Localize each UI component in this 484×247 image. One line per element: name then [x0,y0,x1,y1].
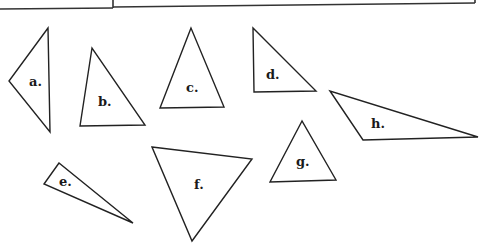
triangle-d: d. [253,28,316,92]
triangle-b-label: b. [98,94,112,109]
triangle-d-label: d. [266,67,280,82]
triangle-c-shape [160,28,224,108]
triangle-h-shape [330,91,478,140]
triangles-figure: a. b. c. d. e. f. g. h. [0,0,484,247]
triangle-a: a. [9,28,50,132]
triangle-e-shape [44,163,133,223]
table-border [0,0,475,9]
triangle-e-label: e. [59,174,72,189]
triangle-worksheet: a. b. c. d. e. f. g. h. [0,0,484,247]
triangle-a-label: a. [29,74,42,89]
triangle-b-shape [80,48,145,126]
triangle-h: h. [330,91,478,140]
triangle-h-label: h. [371,116,385,131]
triangle-g-label: g. [296,154,310,169]
triangle-g-shape [270,121,336,182]
triangle-d-shape [253,28,316,92]
triangle-e: e. [44,163,133,223]
triangle-b: b. [80,48,145,126]
triangle-c-label: c. [186,80,198,95]
triangle-f-label: f. [194,177,204,192]
triangle-f: f. [152,147,252,241]
triangle-g: g. [270,121,336,182]
triangle-c: c. [160,28,224,108]
table-bottom-rule-right [113,3,475,7]
triangle-f-shape [152,147,252,241]
table-bottom-rule-left [0,8,113,9]
